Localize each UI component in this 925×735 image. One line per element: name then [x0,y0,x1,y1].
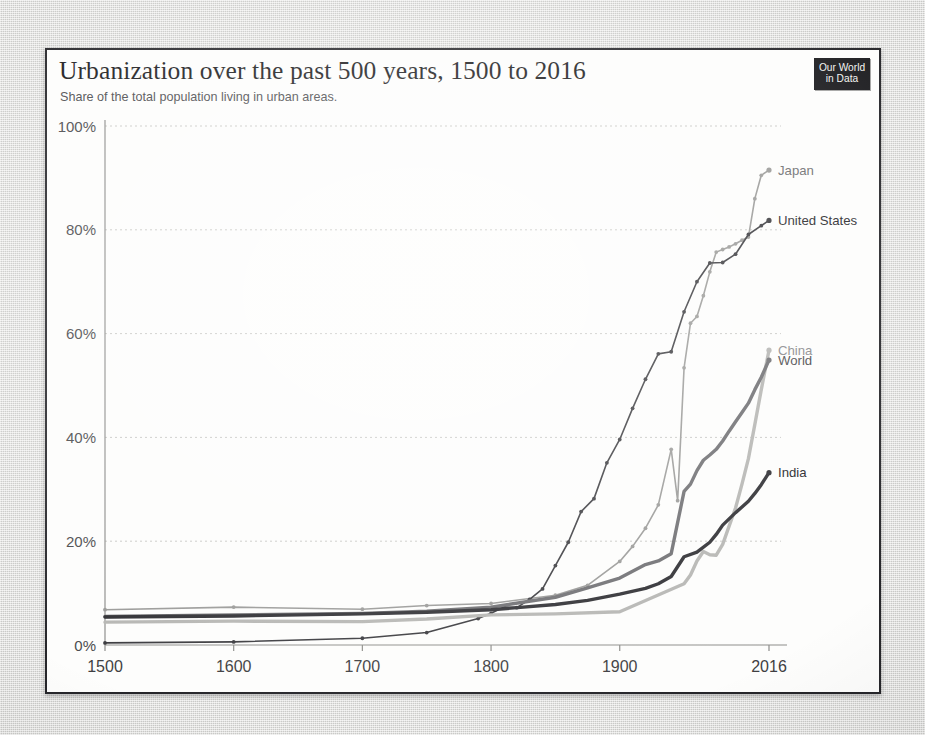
chart-panel: Urbanization over the past 500 years, 15… [45,48,881,694]
series-marker [360,636,364,640]
series-marker [734,252,738,256]
series-end-dot [766,357,771,362]
y-tick-label: 60% [66,325,96,342]
series-marker [689,321,693,325]
series-marker [644,377,648,381]
y-tick-label: 0% [74,637,96,654]
series-marker [669,447,673,451]
y-tick-label: 40% [66,429,96,446]
series-marker [753,197,757,201]
series-marker [618,438,622,442]
series-marker [579,510,583,514]
series-label-world[interactable]: World [778,353,812,368]
series-marker [682,366,686,370]
series-marker [566,540,570,544]
series-marker [734,242,738,246]
series-marker [644,526,648,530]
series-marker [592,497,596,501]
series-end-dot [766,218,771,223]
series-marker [682,310,686,314]
series-marker [676,499,680,503]
series-marker [631,406,635,410]
series-marker [656,503,660,507]
series-marker [232,640,236,644]
series-marker [360,607,364,611]
series-marker [714,250,718,254]
series-marker [727,245,731,249]
series-line-india [105,473,769,617]
x-tick-label: 2016 [751,658,787,675]
series-marker [103,608,107,612]
series-marker [708,270,712,274]
series-marker [695,315,699,319]
series-marker [701,294,705,298]
series-line-japan [105,170,769,610]
series-marker [695,280,699,284]
series-label-india[interactable]: India [778,465,807,480]
series-marker [656,352,660,356]
series-marker [605,461,609,465]
series-marker [425,604,429,608]
series-marker [425,631,429,635]
y-axis-tick-labels: 0%20%40%60%80%100% [58,118,96,654]
series-marker [721,248,725,252]
series-lines [103,168,771,645]
y-tick-label: 100% [58,118,96,135]
series-marker [553,564,557,568]
series-marker [708,261,712,265]
y-tick-label: 80% [66,221,96,238]
x-tick-label: 1500 [87,658,123,675]
series-marker [759,224,763,228]
series-line-united-states [105,220,769,642]
series-marker [103,641,107,645]
x-tick-label: 1600 [216,658,252,675]
line-chart-svg: 0%20%40%60%80%100% 150016001700180019002… [47,50,879,692]
series-marker [669,350,673,354]
y-tick-label: 20% [66,533,96,550]
x-tick-label: 1700 [345,658,381,675]
gridlines [105,126,781,541]
series-end-dot [766,168,771,173]
series-marker [631,544,635,548]
series-marker [618,560,622,564]
series-end-dot [766,348,771,353]
series-label-united-states[interactable]: United States [778,213,858,228]
series-label-japan[interactable]: Japan [778,163,814,178]
series-end-dot [766,470,771,475]
x-tick-label: 1900 [602,658,638,675]
x-axis-tick-labels: 150016001700180019002016 [87,658,787,675]
series-marker [721,261,725,265]
axes [105,120,787,651]
series-marker [759,173,763,177]
series-marker [541,587,545,591]
series-line-china [105,350,769,622]
x-tick-label: 1800 [473,658,509,675]
series-marker [232,605,236,609]
series-marker [489,602,493,606]
series-end-labels: JapanUnited StatesChinaWorldIndia [766,163,857,481]
series-marker [747,233,751,237]
